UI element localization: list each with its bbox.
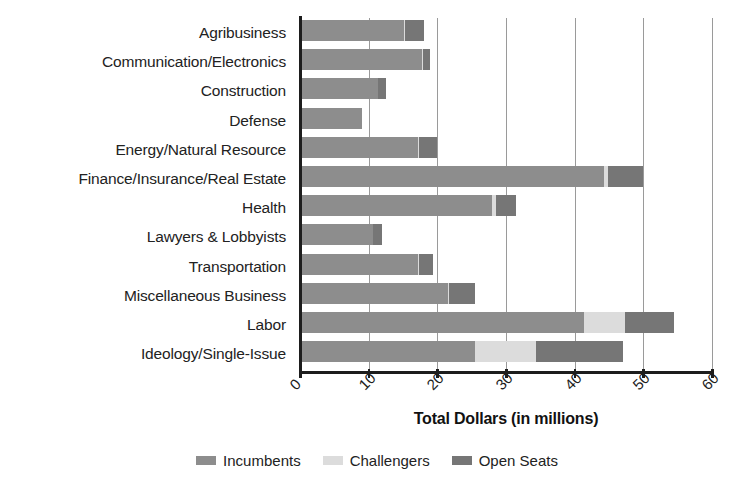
bar-segment-challengers [584,312,625,333]
legend-label: Incumbents [223,452,301,469]
bar-segment-open-seats [536,341,623,362]
bar-segment-open-seats [496,195,517,216]
bar-segment-incumbents [300,137,418,158]
category-label: Finance/Insurance/Real Estate [78,164,286,193]
category-label: Miscellaneous Business [124,281,286,310]
bar-segment-incumbents [300,20,404,41]
legend-swatch-open-seats-icon [452,456,472,465]
bar-segment-open-seats [608,166,643,187]
x-tick-mark [299,369,302,378]
category-label: Construction [201,76,286,105]
bar-row [300,166,712,187]
gridline [712,18,713,370]
bar-row [300,341,712,362]
category-label: Energy/Natural Resource [115,135,286,164]
bar-segment-incumbents [300,312,584,333]
bar-segment-open-seats [373,224,382,245]
category-label: Ideology/Single-Issue [141,339,286,368]
bar-segment-open-seats [419,254,433,275]
bar-row [300,224,712,245]
bar-segment-open-seats [378,78,386,99]
legend-item[interactable]: Incumbents [196,452,301,469]
bar-segment-open-seats [423,49,431,70]
bar-segment-open-seats [419,137,438,158]
category-label: Communication/Electronics [102,47,286,76]
bar-row [300,20,712,41]
bar-segment-open-seats [405,20,424,41]
bar-segment-incumbents [300,195,492,216]
bar-segment-incumbents [300,224,373,245]
bar-segment-open-seats [625,312,674,333]
legend-item[interactable]: Challengers [323,452,430,469]
bar-row [300,108,712,129]
bar-row [300,312,712,333]
bar-segment-incumbents [300,108,362,129]
category-label: Transportation [189,252,286,281]
bar-row [300,49,712,70]
bar-segment-open-seats [449,283,475,304]
bar-segment-incumbents [300,166,604,187]
legend-label: Open Seats [479,452,558,469]
legend-label: Challengers [350,452,430,469]
y-axis-line [299,16,302,372]
category-axis-labels: AgribusinessCommunication/ElectronicsCon… [0,14,294,369]
legend-item[interactable]: Open Seats [452,452,558,469]
category-label: Health [242,193,286,222]
bar-segment-incumbents [300,49,422,70]
category-label: Labor [247,310,286,339]
bar-row [300,78,712,99]
bar-segment-incumbents [300,254,418,275]
x-axis-title: Total Dollars (in millions) [300,410,712,428]
category-label: Lawyers & Lobbyists [147,222,286,251]
bar-segment-incumbents [300,283,448,304]
bar-segment-incumbents [300,341,475,362]
legend-swatch-incumbents-icon [196,456,216,465]
bar-segment-challengers [475,341,535,362]
bar-row [300,195,712,216]
legend-swatch-challengers-icon [323,456,343,465]
bar-row [300,137,712,158]
plot-area [300,18,712,370]
category-label: Agribusiness [199,18,286,47]
chart-legend: IncumbentsChallengersOpen Seats [0,452,754,469]
chart-container: AgribusinessCommunication/ElectronicsCon… [0,0,754,485]
bar-row [300,254,712,275]
category-label: Defense [229,106,286,135]
bar-segment-incumbents [300,78,378,99]
bar-row [300,283,712,304]
